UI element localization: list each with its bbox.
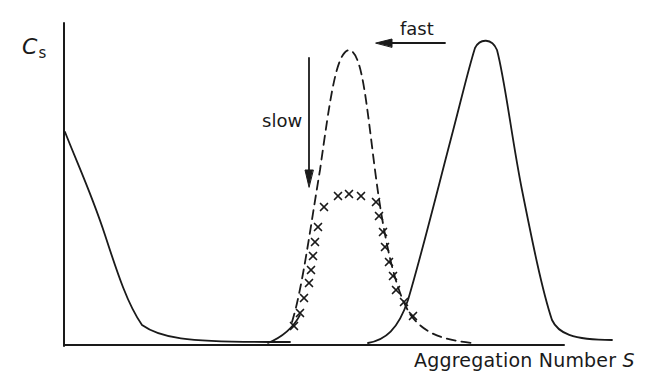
y-axis-label: Cs [22,34,46,62]
fast-arrow-head [376,39,392,47]
fast-annotation: fast [400,18,434,39]
y-axis-subscript: s [38,44,46,62]
monomer-curve [65,132,290,342]
x-axis-label-text: Aggregation Number [414,349,616,371]
x-axis-symbol: S [623,349,635,371]
dashed-peak-curve [292,50,472,343]
slow-annotation: slow [262,110,302,131]
x-axis-label: Aggregation Number S [414,349,635,371]
micelle-peak-curve [368,41,612,343]
crossed-curve-base [268,315,300,343]
y-axis-symbol: C [22,34,37,59]
cross-markers [291,191,417,330]
distribution-diagram [0,0,646,390]
slow-arrow-head [305,170,313,187]
